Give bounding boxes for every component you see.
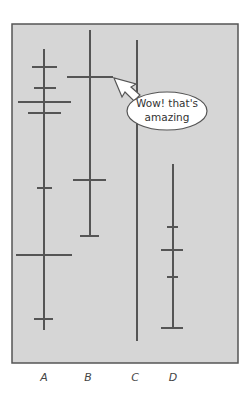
- diagram-canvas: Wow! that's amazing A B C D: [0, 0, 250, 395]
- label-d: D: [169, 371, 177, 384]
- label-a: A: [39, 371, 48, 384]
- callout-line-1: Wow! that's: [136, 97, 198, 109]
- chart-frame: [12, 24, 238, 363]
- label-c: C: [131, 371, 139, 384]
- callout-line-2: amazing: [145, 111, 190, 123]
- label-b: B: [84, 371, 92, 384]
